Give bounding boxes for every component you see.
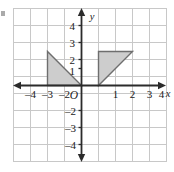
x-tick-label: 4 [159, 88, 165, 100]
y-tick-label: 3 [70, 37, 76, 49]
edge-artifact-mark [1, 11, 5, 16]
x-tick-label: –3 [41, 88, 54, 100]
x-tick-label: –4 [24, 88, 37, 100]
y-tick-label: 4 [70, 20, 76, 32]
y-tick-label: –2 [64, 105, 76, 117]
x-tick-label: 1 [113, 88, 119, 100]
coordinate-plane-graphic: –4 –3 –2 1 2 3 4 4 3 2 1 –2 –3 –4 O x y [0, 0, 174, 172]
y-tick-label: –3 [64, 122, 77, 134]
y-axis-label: y [89, 11, 95, 22]
coordinate-plane-figure: –4 –3 –2 1 2 3 4 4 3 2 1 –2 –3 –4 O x y … [0, 0, 174, 172]
x-tick-label: 2 [130, 88, 136, 100]
x-tick-label: –2 [58, 88, 70, 100]
origin-label: O [70, 89, 79, 101]
x-axis-label: x [165, 88, 171, 99]
x-tick-label: 3 [147, 88, 153, 100]
y-tick-label: 1 [70, 65, 76, 77]
y-tick-label: –4 [64, 139, 77, 151]
